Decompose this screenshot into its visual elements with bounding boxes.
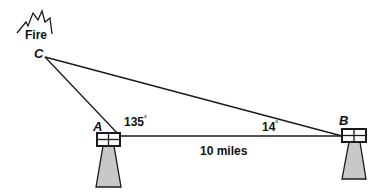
tower-a-icon <box>96 133 121 187</box>
point-a-label: A <box>92 119 102 134</box>
side-ab-label: 10 miles <box>200 144 248 158</box>
angle-b-value: 14° <box>262 120 278 134</box>
angle-a-value: 135° <box>124 115 147 129</box>
point-c-label: C <box>34 46 44 61</box>
side-ca <box>45 57 120 136</box>
fire-triangle-diagram: Fire C A B 135° 14° 10 miles <box>0 0 389 193</box>
tower-b-icon <box>342 129 366 179</box>
fire-label: Fire <box>25 28 47 42</box>
side-cb <box>45 57 342 136</box>
point-b-label: B <box>339 113 348 128</box>
